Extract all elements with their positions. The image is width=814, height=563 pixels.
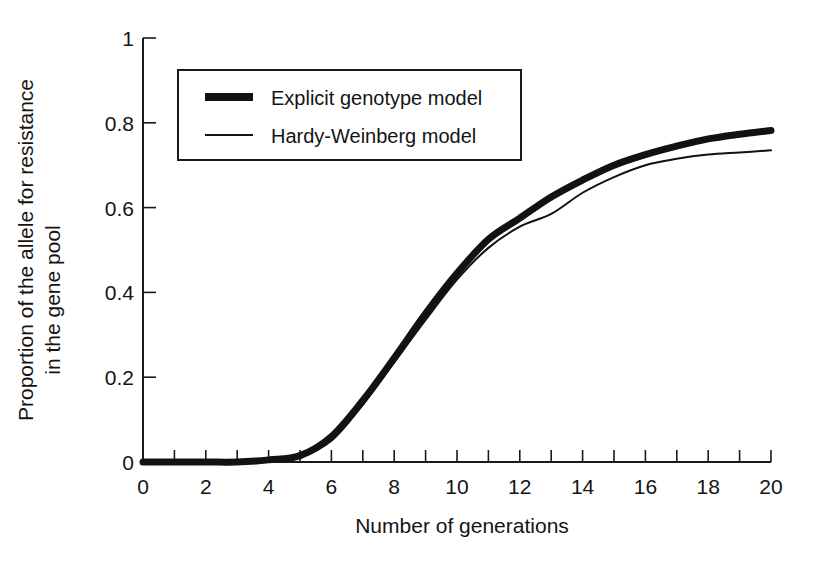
x-tick-label-16: 16 <box>634 475 657 498</box>
y-tick-label-1: 1 <box>122 27 134 50</box>
y-tick-label-0.6: 0.6 <box>105 197 134 220</box>
x-tick-label-2: 2 <box>200 475 212 498</box>
y-tick-label-0.8: 0.8 <box>105 112 134 135</box>
legend-label-hardy-weinberg: Hardy-Weinberg model <box>271 125 476 147</box>
legend-label-explicit-genotype: Explicit genotype model <box>271 87 482 109</box>
y-axis-title-line2: in the gene pool <box>41 225 64 374</box>
x-tick-label-10: 10 <box>445 475 468 498</box>
x-tick-label-14: 14 <box>571 475 595 498</box>
y-tick-label-0.4: 0.4 <box>105 281 135 304</box>
y-tick-label-0: 0 <box>122 451 134 474</box>
chart-legend: Explicit genotype model Hardy-Weinberg m… <box>178 70 521 160</box>
x-tick-label-18: 18 <box>697 475 720 498</box>
x-tick-label-20: 20 <box>759 475 782 498</box>
y-axis-title-line1: Proportion of the allele for resistance <box>14 79 37 421</box>
x-tick-label-0: 0 <box>137 475 149 498</box>
x-axis-title: Number of generations <box>355 514 569 537</box>
line-chart: 1 0.8 0.6 0.4 0.2 0 <box>0 0 814 563</box>
x-tick-label-4: 4 <box>263 475 275 498</box>
x-tick-label-12: 12 <box>508 475 531 498</box>
x-tick-label-8: 8 <box>388 475 400 498</box>
x-tick-label-6: 6 <box>326 475 338 498</box>
chart-figure: 1 0.8 0.6 0.4 0.2 0 <box>0 0 814 563</box>
y-tick-label-0.2: 0.2 <box>105 366 134 389</box>
